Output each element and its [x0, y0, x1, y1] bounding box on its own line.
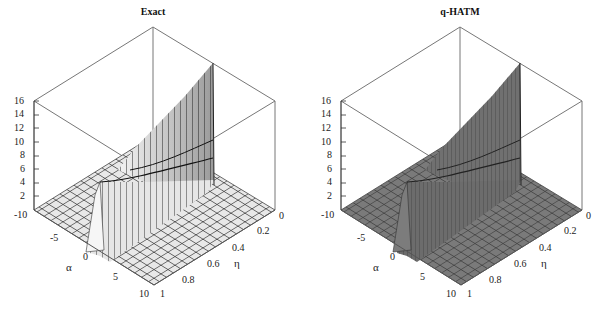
z-tick: 16 — [321, 96, 331, 106]
exact-surface-plot — [0, 0, 300, 311]
eta-tick: 0.6 — [207, 259, 220, 269]
plot-title: Exact — [141, 6, 165, 17]
alpha-tick: -5 — [357, 233, 365, 243]
z-tick: 10 — [14, 137, 24, 147]
eta-tick: 1 — [467, 289, 472, 299]
eta-tick: 0.2 — [564, 226, 577, 236]
z-tick: 4 — [20, 177, 25, 187]
z-tick: 6 — [327, 164, 332, 174]
alpha-tick: -10 — [14, 210, 27, 220]
alpha-tick: 5 — [113, 272, 118, 282]
alpha-tick: 10 — [139, 289, 149, 299]
plot-q-hatm: q-HATM 16 14 12 10 8 6 4 2 -10 -5 0 5 10… — [307, 0, 601, 311]
eta-tick: 0.8 — [489, 275, 502, 285]
z-tick: 2 — [20, 191, 25, 201]
eta-tick: 0.2 — [257, 226, 270, 236]
eta-tick: 0.4 — [539, 243, 552, 253]
z-tick: 8 — [327, 150, 332, 160]
z-tick: 8 — [20, 150, 25, 160]
z-tick: 12 — [321, 123, 331, 133]
alpha-tick: 10 — [446, 289, 456, 299]
z-tick: 6 — [20, 164, 25, 174]
alpha-tick: 0 — [390, 252, 395, 262]
eta-tick: 0.6 — [514, 259, 527, 269]
q-hatm-surface-plot — [307, 0, 601, 311]
alpha-axis-label: α — [66, 262, 72, 273]
eta-tick: 0 — [586, 211, 591, 221]
plot-title: q-HATM — [440, 6, 479, 17]
eta-tick: 1 — [160, 289, 165, 299]
alpha-tick: -5 — [50, 233, 58, 243]
alpha-tick: -10 — [321, 210, 334, 220]
z-tick: 12 — [14, 123, 24, 133]
z-tick: 14 — [321, 109, 331, 119]
eta-tick: 0.8 — [182, 275, 195, 285]
eta-tick: 0.4 — [232, 243, 245, 253]
z-tick: 2 — [327, 191, 332, 201]
z-tick: 10 — [321, 137, 331, 147]
z-tick: 14 — [14, 109, 24, 119]
eta-axis-label: η — [234, 258, 240, 269]
eta-axis-label: η — [541, 258, 547, 269]
z-tick: 16 — [14, 96, 24, 106]
alpha-axis-label: α — [373, 262, 379, 273]
plot-exact: Exact 16 14 12 10 8 6 4 2 -10 -5 0 5 10 … — [0, 0, 300, 311]
alpha-tick: 0 — [83, 252, 88, 262]
eta-tick: 0 — [279, 211, 284, 221]
alpha-tick: 5 — [420, 272, 425, 282]
z-tick: 4 — [327, 177, 332, 187]
